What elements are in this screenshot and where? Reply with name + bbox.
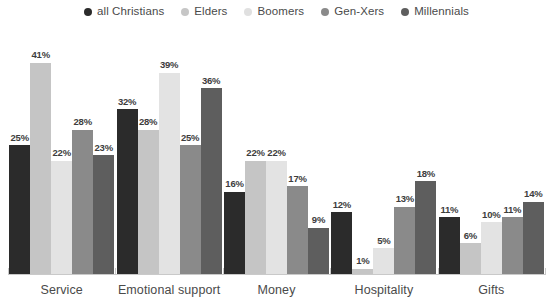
bar[interactable]: [138, 130, 159, 274]
x-axis-category-label: Gifts: [438, 278, 545, 304]
x-axis-tick: [545, 268, 546, 275]
x-axis-baseline: [8, 274, 545, 275]
x-axis-category-labels: ServiceEmotional supportMoneyHospitality…: [8, 278, 545, 304]
bar-group: 12%1%5%13%18%: [330, 28, 437, 274]
bar-value-label: 10%: [482, 210, 500, 220]
bar-column[interactable]: 11%: [439, 28, 460, 274]
bar-column[interactable]: 39%: [159, 28, 180, 274]
bar[interactable]: [331, 212, 352, 274]
x-axis-tick: [330, 268, 331, 275]
legend-item[interactable]: Elders: [181, 6, 227, 18]
bar-column[interactable]: 22%: [245, 28, 266, 274]
chart-legend: all ChristiansEldersBoomersGen-XersMille…: [0, 6, 553, 18]
bar-column[interactable]: 5%: [373, 28, 394, 274]
bar-value-label: 22%: [246, 148, 264, 158]
bar-column[interactable]: 41%: [30, 28, 51, 274]
bar[interactable]: [30, 63, 51, 274]
plot-area: 25%41%22%28%23%32%28%39%25%36%16%22%22%1…: [8, 28, 545, 274]
bar[interactable]: [159, 73, 180, 274]
x-axis-category-label: Hospitality: [330, 278, 437, 304]
bar-column[interactable]: 11%: [502, 28, 523, 274]
x-axis-tick: [438, 268, 439, 275]
bar-column[interactable]: 28%: [72, 28, 93, 274]
legend-swatch-circle-icon: [321, 8, 329, 16]
bar-column[interactable]: 16%: [224, 28, 245, 274]
bar-column[interactable]: 10%: [481, 28, 502, 274]
bar-value-label: 12%: [333, 200, 351, 210]
bar-value-label: 39%: [160, 60, 178, 70]
bar-value-label: 5%: [377, 236, 390, 246]
legend-item-label: Boomers: [257, 6, 304, 18]
bar-value-label: 18%: [417, 169, 435, 179]
bar[interactable]: [287, 186, 308, 274]
bar-value-label: 28%: [139, 117, 157, 127]
bar-column[interactable]: 32%: [117, 28, 138, 274]
bar[interactable]: [93, 155, 114, 274]
bar-value-label: 9%: [312, 215, 325, 225]
legend-item[interactable]: Millennials: [401, 6, 469, 18]
bar-column[interactable]: 36%: [201, 28, 222, 274]
legend-item[interactable]: all Christians: [84, 6, 164, 18]
bar[interactable]: [72, 130, 93, 274]
bar[interactable]: [415, 181, 436, 274]
legend-swatch-circle-icon: [181, 8, 189, 16]
bar-value-label: 11%: [440, 205, 458, 215]
bar[interactable]: [9, 145, 30, 274]
grouped-bar-chart: all ChristiansEldersBoomersGen-XersMille…: [0, 0, 553, 304]
bar[interactable]: [502, 217, 523, 274]
bar[interactable]: [523, 202, 544, 274]
x-axis-category-label: Money: [223, 278, 330, 304]
bar-column[interactable]: 13%: [394, 28, 415, 274]
x-axis-category-label: Service: [8, 278, 115, 304]
legend-item[interactable]: Boomers: [244, 6, 304, 18]
legend-item-label: Millennials: [414, 6, 469, 18]
bar-value-label: 1%: [356, 256, 369, 266]
legend-swatch-circle-icon: [84, 8, 92, 16]
bar-column[interactable]: 1%: [352, 28, 373, 274]
legend-swatch-circle-icon: [244, 8, 252, 16]
bar[interactable]: [266, 161, 287, 274]
bar-column[interactable]: 22%: [266, 28, 287, 274]
x-axis-category-label: Emotional support: [115, 278, 222, 304]
bar[interactable]: [51, 161, 72, 274]
bar-group: 25%41%22%28%23%: [8, 28, 115, 274]
bar[interactable]: [481, 222, 502, 274]
bar[interactable]: [180, 145, 201, 274]
bar-column[interactable]: 23%: [93, 28, 114, 274]
bar-value-label: 17%: [288, 174, 306, 184]
bar[interactable]: [373, 248, 394, 274]
bar-column[interactable]: 25%: [180, 28, 201, 274]
bar-column[interactable]: 17%: [287, 28, 308, 274]
legend-item[interactable]: Gen-Xers: [321, 6, 384, 18]
bar-column[interactable]: 9%: [308, 28, 329, 274]
legend-item-label: all Christians: [97, 6, 164, 18]
bar[interactable]: [460, 243, 481, 274]
bar-value-label: 22%: [52, 148, 70, 158]
bar-column[interactable]: 25%: [9, 28, 30, 274]
bar-value-label: 23%: [94, 143, 112, 153]
bar-value-label: 41%: [31, 50, 49, 60]
bar[interactable]: [394, 207, 415, 274]
bar-value-label: 13%: [396, 194, 414, 204]
bar-column[interactable]: 12%: [331, 28, 352, 274]
bar[interactable]: [201, 88, 222, 274]
bar-column[interactable]: 18%: [415, 28, 436, 274]
bar[interactable]: [245, 161, 266, 274]
bar-column[interactable]: 14%: [523, 28, 544, 274]
bar-value-label: 25%: [10, 133, 28, 143]
bar[interactable]: [308, 228, 329, 274]
x-axis-tick: [223, 268, 224, 275]
bar-group: 16%22%22%17%9%: [223, 28, 330, 274]
bar-value-label: 14%: [524, 189, 542, 199]
x-axis-tick: [115, 268, 116, 275]
bar[interactable]: [117, 109, 138, 274]
bar-value-label: 36%: [202, 76, 220, 86]
bar[interactable]: [224, 192, 245, 274]
bar-column[interactable]: 28%: [138, 28, 159, 274]
bar-value-label: 32%: [118, 97, 136, 107]
bar-value-label: 22%: [267, 148, 285, 158]
bar[interactable]: [439, 217, 460, 274]
bar-column[interactable]: 22%: [51, 28, 72, 274]
bar-column[interactable]: 6%: [460, 28, 481, 274]
bar-value-label: 28%: [73, 117, 91, 127]
